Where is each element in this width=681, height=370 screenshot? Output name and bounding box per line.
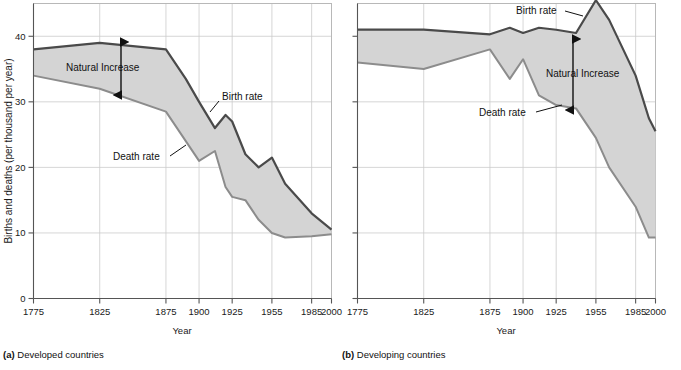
birth-rate-label: Birth rate xyxy=(222,91,263,102)
x-tick-label: 1900 xyxy=(188,306,209,317)
x-tick-label: 1925 xyxy=(222,306,243,317)
birth-rate-annotation: Birth rate xyxy=(210,91,263,112)
x-tick-label: 1900 xyxy=(512,306,533,317)
x-tick-label: 1955 xyxy=(585,306,606,317)
birth-rate-annotation: Birth rate xyxy=(516,5,583,16)
tick-labels-developing: 17751825187519001925195519852000 xyxy=(347,306,666,317)
x-tick-label: 1875 xyxy=(155,306,176,317)
caption-label-a: (a) xyxy=(3,349,15,360)
caption-developing: (b) Developing countries xyxy=(342,349,446,360)
death-rate-annotation: Death rate xyxy=(479,105,562,118)
death-rate-leader xyxy=(536,105,562,112)
panel-developing-countries: 17751825187519001925195519852000 Natural… xyxy=(340,0,681,345)
x-tick-label: 1825 xyxy=(89,306,110,317)
y-tick-label: 20 xyxy=(15,162,26,173)
caption-text-a: Developed countries xyxy=(17,349,104,360)
death-rate-leader xyxy=(170,145,186,156)
y-tick-label: 0 xyxy=(20,293,25,304)
caption-developed: (a) Developed countries xyxy=(3,349,104,360)
natural-increase-label: Natural Increase xyxy=(546,68,620,79)
natural-increase-band xyxy=(358,0,656,237)
natural-increase-label: Natural Increase xyxy=(66,62,140,73)
x-tick-label: 1985 xyxy=(625,306,646,317)
y-axis-title: Births and deaths (per thousand per year… xyxy=(3,58,14,243)
x-tick-label: 1985 xyxy=(301,306,322,317)
x-tick-label: 1925 xyxy=(546,306,567,317)
y-tick-label: 10 xyxy=(15,227,26,238)
birth-rate-leader xyxy=(565,11,583,16)
y-tick-label: 30 xyxy=(15,96,26,107)
x-tick-label: 1825 xyxy=(413,306,434,317)
panel-developed-countries: Births and deaths (per thousand per year… xyxy=(0,0,345,345)
x-tick-label: 1775 xyxy=(23,306,44,317)
birth-rate-leader xyxy=(210,101,219,112)
x-tick-label: 2000 xyxy=(645,306,666,317)
death-rate-annotation: Death rate xyxy=(113,145,186,162)
death-rate-label: Death rate xyxy=(113,151,160,162)
chart-developed: Births and deaths (per thousand per year… xyxy=(0,0,345,345)
x-axis-title: Year xyxy=(172,325,191,336)
x-tick-label: 1875 xyxy=(479,306,500,317)
x-tick-label: 2000 xyxy=(321,306,342,317)
x-tick-label: 1955 xyxy=(261,306,282,317)
chart-developing: 17751825187519001925195519852000 Natural… xyxy=(340,0,681,345)
birth-rate-label: Birth rate xyxy=(516,5,557,16)
y-tick-label: 40 xyxy=(15,31,26,42)
caption-text-b: Developing countries xyxy=(357,349,446,360)
x-tick-label: 1775 xyxy=(347,306,368,317)
death-rate-label: Death rate xyxy=(479,107,526,118)
x-axis-title: Year xyxy=(496,325,515,336)
caption-label-b: (b) xyxy=(342,349,354,360)
population-transition-figure: Births and deaths (per thousand per year… xyxy=(0,0,681,370)
